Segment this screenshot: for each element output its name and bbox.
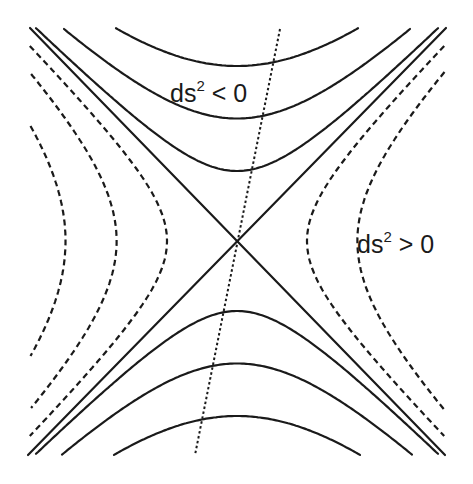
- lower-timelike-hyperbola-1: [36, 311, 438, 454]
- timelike-region-label: ds2 < 0: [170, 77, 247, 107]
- left-spacelike-hyperbola-3: [31, 126, 66, 356]
- upper-timelike-hyperbola-3: [116, 28, 358, 66]
- spacelike-region-label: ds2 > 0: [357, 228, 434, 258]
- lower-timelike-hyperbola-3: [114, 416, 360, 455]
- lower-timelike-hyperbola-2: [62, 364, 412, 455]
- left-spacelike-hyperbola-1: [30, 46, 167, 436]
- left-spacelike-hyperbola-2: [31, 74, 117, 408]
- spacetime-diagram: ds2 < 0 ds2 > 0: [0, 0, 473, 484]
